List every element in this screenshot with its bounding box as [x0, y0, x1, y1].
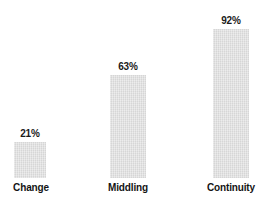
bar-chart: 21% 63% 92% Change Middling Continuity: [0, 0, 272, 205]
bar-middling: [110, 75, 146, 178]
plot-area: 21% 63% 92% Change Middling Continuity: [0, 0, 272, 205]
bar-group-continuity: 92%: [213, 15, 249, 178]
bar-continuity: [213, 29, 249, 178]
category-label-middling: Middling: [100, 182, 156, 194]
bar-group-middling: 63%: [110, 61, 146, 178]
bar-value-label-middling: 63%: [118, 61, 138, 72]
bar-group-change: 21%: [14, 128, 46, 178]
category-label-continuity: Continuity: [201, 182, 261, 194]
bar-value-label-change: 21%: [20, 128, 40, 139]
category-label-change: Change: [8, 182, 54, 194]
bar-value-label-continuity: 92%: [221, 15, 241, 26]
bar-change: [14, 142, 46, 178]
